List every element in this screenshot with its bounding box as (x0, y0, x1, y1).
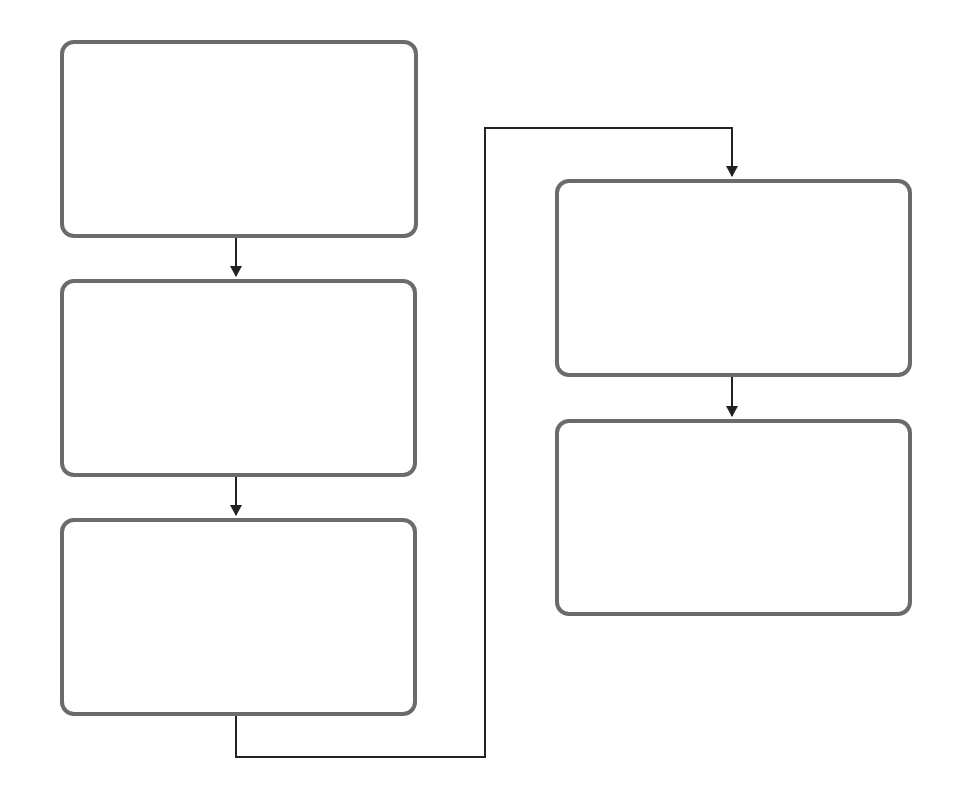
flow-box-step-3 (60, 518, 417, 716)
flow-box-step-5 (555, 419, 912, 616)
arrowhead-icon (230, 505, 242, 516)
flow-box-step-2 (60, 279, 417, 477)
arrowhead-icon (726, 406, 738, 417)
flow-box-step-1 (60, 40, 418, 238)
arrowhead-icon (230, 266, 242, 277)
flow-box-step-4 (555, 179, 912, 377)
arrowhead-icon (726, 166, 738, 177)
